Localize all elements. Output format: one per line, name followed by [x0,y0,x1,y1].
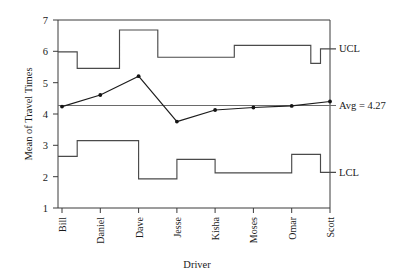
axes [58,20,330,208]
cat-label-dave: Dave [134,216,145,238]
y-label-6: 6 [43,46,48,57]
lcl-step-line [58,141,336,179]
cat-label-bill: Bill [57,217,68,232]
y-tick-labels: 7 6 5 4 3 2 1 [43,15,49,214]
x-category-labels: Bill Daniel Dave Jesse Kisha Moses Omar … [57,216,336,243]
data-point-kisha [213,108,217,112]
y-label-1: 1 [43,203,48,214]
data-point-jesse [175,120,179,124]
data-point-bill [60,105,64,109]
data-point-moses [252,106,256,110]
chart-canvas: 7 6 5 4 3 2 1 [0,0,397,277]
y-label-7: 7 [43,15,48,26]
avg-annotation: Avg = 4.27 [339,100,386,111]
cat-label-jesse: Jesse [172,216,183,237]
x-ticks [62,208,330,213]
data-point-daniel [98,93,102,97]
cat-label-kisha: Kisha [210,216,221,240]
y-label-5: 5 [43,78,48,89]
cat-label-daniel: Daniel [95,217,106,244]
cat-label-scott: Scott [325,217,336,238]
lcl-annotation: LCL [339,167,359,178]
data-series-line [62,76,330,121]
y-axis-title: Mean of Travel Times [23,67,34,160]
data-point-omar [290,104,294,108]
ucl-annotation: UCL [339,43,360,54]
cat-label-omar: Omar [287,216,298,239]
x-axis-title: Driver [183,259,211,270]
control-chart: 7 6 5 4 3 2 1 [0,0,397,277]
ucl-step-line [58,30,336,68]
y-ticks [53,20,58,208]
data-point-dave [137,74,141,78]
cat-label-moses: Moses [248,217,259,243]
y-label-3: 3 [43,140,48,151]
data-point-scott [328,100,332,104]
y-label-4: 4 [43,109,49,120]
y-label-2: 2 [43,172,48,183]
